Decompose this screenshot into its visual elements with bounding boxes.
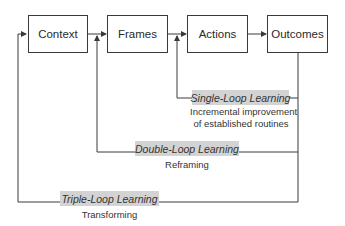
frames-box: Frames	[107, 15, 168, 53]
context-label: Context	[38, 28, 78, 40]
actions-box: Actions	[187, 15, 248, 53]
single-loop-desc-line2: of established routines	[190, 118, 292, 130]
double-loop-description: Reframing	[135, 159, 239, 171]
context-box: Context	[28, 15, 88, 53]
single-loop-desc-line1: Incremental improvement	[190, 106, 292, 118]
learning-loops-diagram: Context Frames Actions Outcomes Single-L…	[0, 0, 345, 226]
triple-loop-description: Transforming	[60, 209, 159, 221]
frames-label: Frames	[118, 28, 157, 40]
outcomes-label: Outcomes	[271, 28, 323, 40]
single-loop-description: Incremental improvement of established r…	[190, 106, 292, 130]
triple-loop-label: Triple-Loop Learning	[60, 191, 159, 206]
double-loop-label: Double-Loop Learning	[135, 141, 239, 156]
actions-label: Actions	[199, 28, 237, 40]
outcomes-box: Outcomes	[267, 15, 328, 53]
single-loop-label: Single-Loop Learning	[192, 90, 289, 105]
